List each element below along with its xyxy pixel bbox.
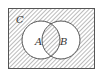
set-b-label: B: [59, 36, 67, 47]
set-a-label: A: [34, 36, 42, 47]
venn-diagram: C A B: [0, 0, 99, 77]
universe-label: C: [16, 14, 24, 25]
